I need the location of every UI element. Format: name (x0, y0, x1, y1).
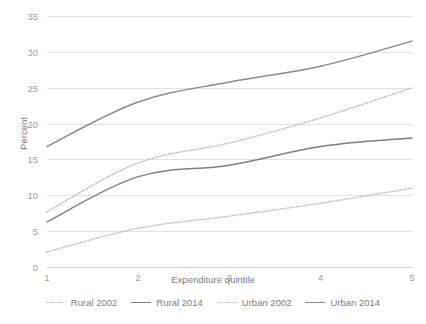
legend-item-rural-2002[interactable]: Rural 2002 (46, 297, 117, 308)
series-line-urban-2002 (47, 88, 412, 212)
plot-area (47, 16, 412, 267)
y-tick-label: 5 (0, 226, 38, 237)
y-tick-label: 25 (0, 82, 38, 93)
x-axis-label: Expenditure quintile (0, 274, 426, 285)
legend-item-rural-2014[interactable]: Rural 2014 (131, 297, 202, 308)
legend-swatch-icon (305, 302, 325, 303)
y-tick-label: 0 (0, 262, 38, 273)
legend-swatch-icon (217, 302, 237, 303)
gridline-0 (47, 267, 412, 268)
line-chart: 05101520253035 12345 Expenditure quintil… (0, 0, 426, 324)
legend-item-urban-2014[interactable]: Urban 2014 (305, 297, 380, 308)
legend-swatch-icon (131, 302, 151, 303)
legend-label: Rural 2014 (156, 297, 202, 308)
legend-label: Urban 2014 (330, 297, 380, 308)
legend-label: Urban 2002 (242, 297, 292, 308)
y-tick-label: 35 (0, 11, 38, 22)
series-line-urban-2014 (47, 41, 412, 146)
series-lines (47, 16, 412, 267)
y-axis-label: Percent (18, 94, 29, 174)
series-line-rural-2014 (47, 138, 412, 222)
legend-label: Rural 2002 (71, 297, 117, 308)
chart-legend: Rural 2002Rural 2014Urban 2002Urban 2014 (0, 297, 426, 308)
legend-item-urban-2002[interactable]: Urban 2002 (217, 297, 292, 308)
legend-swatch-icon (46, 302, 66, 303)
series-line-rural-2002 (47, 188, 412, 252)
y-tick-label: 30 (0, 46, 38, 57)
y-tick-label: 10 (0, 190, 38, 201)
